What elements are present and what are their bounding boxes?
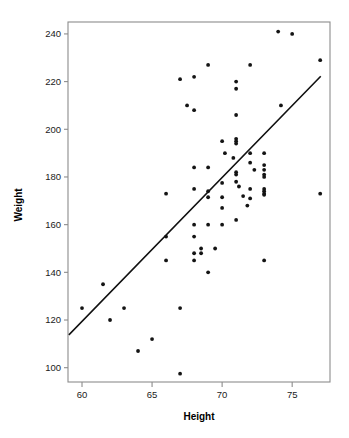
data-point xyxy=(220,181,224,185)
data-point xyxy=(234,173,238,177)
data-point xyxy=(220,195,224,199)
y-tick-label: 180 xyxy=(45,171,61,182)
data-point xyxy=(164,259,168,263)
data-point xyxy=(192,187,196,191)
data-point xyxy=(192,108,196,112)
data-point xyxy=(231,156,235,160)
data-point xyxy=(206,195,210,199)
data-point xyxy=(206,63,210,67)
data-point xyxy=(178,77,182,81)
data-point xyxy=(206,166,210,170)
data-point xyxy=(262,193,266,197)
x-axis-title: Height xyxy=(183,411,215,422)
data-point xyxy=(234,80,238,84)
data-point xyxy=(248,151,252,155)
data-point xyxy=(206,270,210,274)
data-point xyxy=(234,180,238,184)
data-point xyxy=(262,259,266,263)
regression-line xyxy=(69,77,320,334)
data-point xyxy=(290,32,294,36)
data-point xyxy=(213,247,217,251)
data-point xyxy=(245,204,249,208)
data-point xyxy=(318,192,322,196)
data-point xyxy=(108,318,112,322)
y-tick-label: 220 xyxy=(45,76,61,87)
x-axis-ticks: 60657075 xyxy=(77,382,298,400)
data-point xyxy=(241,194,245,198)
data-point xyxy=(234,113,238,117)
data-points-group xyxy=(80,30,322,376)
data-point xyxy=(234,87,238,91)
y-tick-label: 160 xyxy=(45,219,61,230)
data-point xyxy=(101,282,105,286)
data-point xyxy=(164,192,168,196)
data-point xyxy=(220,223,224,227)
data-point xyxy=(234,218,238,222)
y-axis-title: Weight xyxy=(13,188,24,222)
data-point xyxy=(262,168,266,172)
data-point xyxy=(279,104,283,108)
data-point xyxy=(150,337,154,341)
data-point xyxy=(185,104,189,108)
regression-line-group xyxy=(69,77,320,334)
data-point xyxy=(178,306,182,310)
y-tick-label: 240 xyxy=(45,28,61,39)
x-tick-label: 65 xyxy=(147,389,158,400)
y-tick-label: 100 xyxy=(45,362,61,373)
data-point xyxy=(178,372,182,376)
data-point xyxy=(80,306,84,310)
data-point xyxy=(220,139,224,143)
data-point xyxy=(262,175,266,179)
data-point xyxy=(318,58,322,62)
data-point xyxy=(220,206,224,210)
data-point xyxy=(248,161,252,165)
data-point xyxy=(206,223,210,227)
data-point xyxy=(122,306,126,310)
data-point xyxy=(248,197,252,201)
data-point xyxy=(136,349,140,353)
data-point xyxy=(199,251,203,255)
data-point xyxy=(192,251,196,255)
data-point xyxy=(248,63,252,67)
y-axis-ticks: 100120140160180200220240 xyxy=(45,28,68,373)
data-point xyxy=(262,163,266,167)
data-point xyxy=(276,30,280,34)
y-tick-label: 140 xyxy=(45,267,61,278)
x-tick-label: 60 xyxy=(77,389,88,400)
x-tick-label: 70 xyxy=(217,389,228,400)
data-point xyxy=(192,75,196,79)
data-point xyxy=(262,151,266,155)
y-tick-label: 120 xyxy=(45,314,61,325)
data-point xyxy=(199,247,203,251)
data-point xyxy=(248,187,252,191)
data-point xyxy=(192,259,196,263)
plot-canvas: 100120140160180200220240 60657075 Weight… xyxy=(0,0,349,438)
x-tick-label: 75 xyxy=(287,389,298,400)
data-point xyxy=(192,166,196,170)
data-point xyxy=(252,168,256,172)
y-tick-label: 200 xyxy=(45,124,61,135)
scatter-plot-figure: 100120140160180200220240 60657075 Weight… xyxy=(0,0,349,438)
data-point xyxy=(192,235,196,239)
data-point xyxy=(192,223,196,227)
data-point xyxy=(237,185,241,189)
data-point xyxy=(223,151,227,155)
data-point xyxy=(234,142,238,146)
